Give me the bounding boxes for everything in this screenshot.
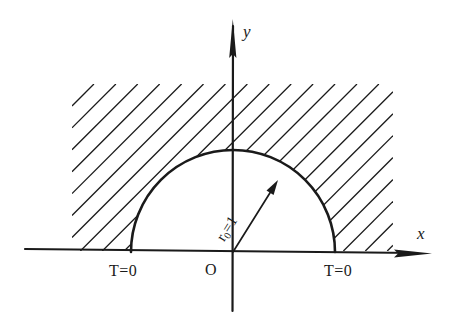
hatch-line [72,84,94,106]
radius-arrow [233,180,278,252]
hatch-line [72,84,116,128]
y-axis-label: y [243,23,251,40]
hatch-line [387,245,393,251]
hatch-line [72,84,138,150]
radius-arrow-line [233,186,274,252]
hatch-line [72,84,204,216]
boundary-condition-label-left: T=0 [109,263,137,279]
hatch-line [124,84,291,251]
x-axis-line [25,249,416,253]
x-axis-arrow-icon [394,250,432,258]
boundary-condition-label-right: T=0 [324,263,352,279]
hatch-line [234,92,393,251]
hatch-line [168,84,335,251]
hatch-line [321,179,393,251]
hatch-line [365,223,393,251]
hatch-line [72,84,225,237]
origin-label: O [205,262,217,278]
figure-canvas: y x O T=0 T=0 r0=1 [0,0,457,332]
y-axis-line [233,26,234,311]
hatch-line [278,136,393,251]
geometry-diagram-svg [0,0,457,332]
x-axis-label: x [417,225,425,242]
hatch-line [72,84,160,172]
hatch-line [102,84,269,251]
axes-group [25,19,432,311]
y-axis-arrow-icon [229,19,236,58]
hatch-line [343,201,393,251]
